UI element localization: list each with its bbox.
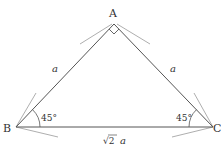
- side-label-ab: a: [52, 63, 58, 74]
- construction-line-a-left: [80, 24, 112, 44]
- construction-line-c-down: [172, 127, 213, 137]
- angle-arc-b: [33, 110, 41, 127]
- base-var-label: a: [120, 135, 126, 146]
- vertex-label-c: C: [213, 122, 221, 135]
- construction-line-a-right: [117, 24, 150, 44]
- radical-label: √2: [103, 136, 114, 146]
- angle-label-b: 45°: [41, 113, 57, 123]
- side-ab: [16, 24, 114, 127]
- triangle-diagram: A B C a a 45° 45° √2 a: [0, 0, 221, 148]
- vertex-label-b: B: [3, 122, 11, 135]
- side-label-ac: a: [170, 63, 176, 74]
- vertex-label-a: A: [108, 7, 118, 20]
- right-angle-marker: [109, 29, 119, 34]
- side-ac: [114, 24, 213, 127]
- side-label-bc: √2 a: [103, 135, 126, 146]
- angle-label-c: 45°: [176, 113, 192, 123]
- construction-line-b-down: [16, 127, 58, 137]
